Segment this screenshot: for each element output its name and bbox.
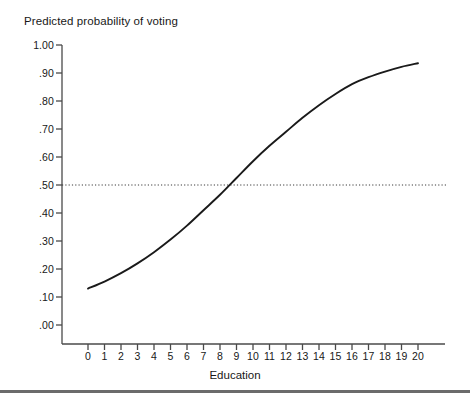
x-tick-label: 17 [363, 350, 375, 362]
probability-curve [88, 63, 418, 288]
x-tick-label: 1 [102, 350, 108, 362]
x-tick-label: 6 [184, 350, 190, 362]
x-tick-label: 12 [280, 350, 292, 362]
x-tick-label: 5 [168, 350, 174, 362]
x-tick-label: 15 [330, 350, 342, 362]
x-tick-label: 9 [234, 350, 240, 362]
x-axis-title: Education [0, 369, 470, 381]
x-tick-label: 11 [264, 350, 275, 362]
x-tick-label: 2 [118, 350, 124, 362]
plot-svg [0, 0, 470, 399]
x-tick-label: 4 [151, 350, 157, 362]
x-tick-label: 19 [396, 350, 408, 362]
x-tick-label: 8 [217, 350, 223, 362]
x-tick-label: 14 [313, 350, 325, 362]
x-tick-label: 18 [379, 350, 391, 362]
x-tick-label: 0 [85, 350, 91, 362]
x-tick-label: 10 [247, 350, 259, 362]
figure-container: Predicted probability of voting 1.00.90.… [0, 0, 470, 399]
y-axis-ticks [56, 45, 62, 325]
x-tick-label: 3 [135, 350, 141, 362]
bottom-divider [0, 390, 470, 393]
x-tick-label: 16 [346, 350, 358, 362]
x-tick-label: 20 [412, 350, 424, 362]
x-tick-label: 7 [201, 350, 207, 362]
x-tick-label: 13 [297, 350, 309, 362]
